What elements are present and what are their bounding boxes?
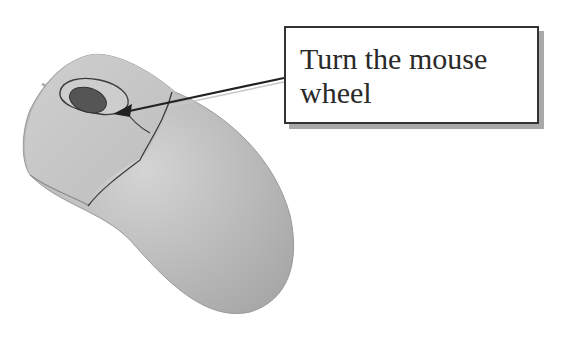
- callout-text: Turn the mouse wheel: [300, 42, 537, 110]
- callout-box: Turn the mouse wheel: [284, 26, 539, 124]
